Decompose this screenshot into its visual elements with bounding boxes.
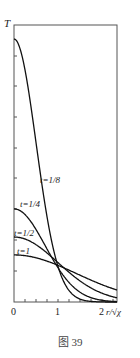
x-tick-1: 1 [55, 306, 60, 317]
label-t-1-8: t=1/8 [40, 175, 61, 185]
x-tick-0: 0 [11, 306, 16, 317]
curve-t-1-8 [14, 39, 117, 302]
chart-svg: T 0 1 2 r/√χ t=1/8 t=1/4 t=1/2 t=1 [0, 0, 140, 358]
x-axis-label: r/√χ [106, 307, 122, 317]
label-t-1-4: t=1/4 [20, 199, 41, 209]
x-tick-2: 2 [99, 306, 104, 317]
label-t-1-2: t=1/2 [14, 228, 35, 238]
plot-frame [14, 25, 117, 302]
figure-caption: 图 39 [0, 333, 140, 349]
y-axis-label: T [4, 17, 11, 29]
curves [14, 39, 117, 302]
label-t-1: t=1 [17, 246, 30, 256]
